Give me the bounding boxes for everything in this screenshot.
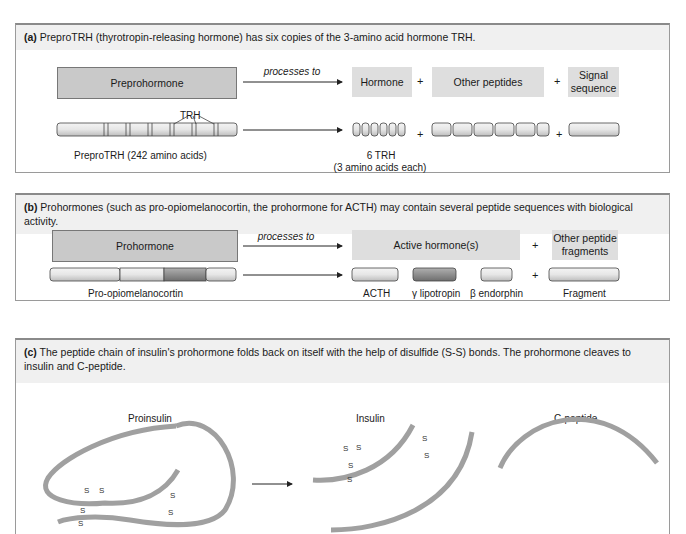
svg-text:S: S bbox=[424, 451, 429, 460]
insulin-chain-a bbox=[313, 425, 413, 480]
svg-text:S: S bbox=[347, 475, 352, 484]
diagram-graphics: SS SS SS SS SS SS bbox=[0, 0, 686, 534]
svg-text:S: S bbox=[170, 491, 175, 500]
svg-text:S: S bbox=[343, 444, 348, 453]
svg-text:S: S bbox=[356, 443, 361, 452]
svg-text:S: S bbox=[168, 508, 173, 517]
other-peptide-cylinders bbox=[432, 123, 549, 136]
cpeptide-chain bbox=[500, 419, 657, 468]
disulfide-bonds: SS SS SS SS SS SS bbox=[78, 434, 429, 528]
gamma-cylinder bbox=[413, 268, 456, 281]
acth-cylinder bbox=[352, 268, 398, 281]
proinsulin-chain-a bbox=[45, 426, 178, 504]
svg-text:S: S bbox=[348, 461, 353, 470]
svg-text:S: S bbox=[422, 434, 427, 443]
svg-text:S: S bbox=[78, 519, 83, 528]
beta-cylinder bbox=[481, 268, 512, 281]
svg-text:S: S bbox=[99, 486, 104, 495]
prepro-trh-cylinder bbox=[57, 123, 237, 136]
svg-text:S: S bbox=[84, 486, 89, 495]
fragment-cylinder bbox=[549, 268, 619, 281]
svg-text:S: S bbox=[80, 506, 85, 515]
signal-sequence-cylinder bbox=[569, 123, 619, 136]
six-trh-cylinders bbox=[353, 123, 405, 136]
